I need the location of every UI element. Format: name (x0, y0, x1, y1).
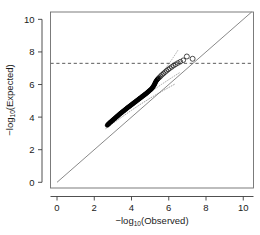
x-axis-tick-label: 4 (129, 202, 134, 213)
y-axis-tick-label: 8 (29, 46, 34, 57)
x-axis-tick-label: 0 (54, 202, 59, 213)
x-axis-tick-label: 10 (238, 202, 249, 213)
qq-plot-canvas: 0246810 0246810 −log10(Observed)−log10(E… (0, 0, 260, 235)
x-axis-tick-label: 2 (92, 202, 97, 213)
y-axis-tick-label: 10 (24, 14, 35, 25)
y-axis-tick-label: 6 (29, 79, 34, 90)
y-axis-tick-label: 0 (29, 177, 34, 188)
x-axis-title: −log10(Observed) (115, 215, 188, 227)
qq-plot-figure: 0246810 0246810 −log10(Observed)−log10(E… (0, 0, 260, 235)
y-axis-tick-label: 4 (29, 112, 34, 123)
x-axis-tick-label: 8 (203, 202, 208, 213)
x-axis-tick-label: 6 (166, 202, 171, 213)
y-axis-title: −log10(Expected) (4, 64, 16, 136)
y-axis-tick-label: 2 (29, 144, 34, 155)
